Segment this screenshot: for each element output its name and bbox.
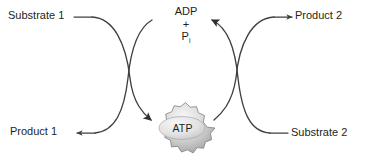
reaction-cycle-diagram: Substrate 1 Product 1 Product 2 Substrat… bbox=[0, 0, 365, 155]
label-adp-phosphate-group: ADP + Pi bbox=[166, 6, 206, 45]
label-substrate-2: Substrate 2 bbox=[291, 127, 347, 138]
label-product-1: Product 1 bbox=[10, 126, 57, 137]
label-inorganic-phosphate: Pi bbox=[166, 31, 206, 45]
label-product-2: Product 2 bbox=[295, 10, 342, 21]
label-substrate-1: Substrate 1 bbox=[8, 10, 64, 21]
atp-burst-icon bbox=[159, 103, 215, 153]
label-pi-subscript: i bbox=[189, 37, 191, 44]
label-plus-sign: + bbox=[166, 19, 206, 31]
label-adp: ADP bbox=[166, 6, 206, 18]
label-pi-symbol: P bbox=[182, 30, 189, 42]
